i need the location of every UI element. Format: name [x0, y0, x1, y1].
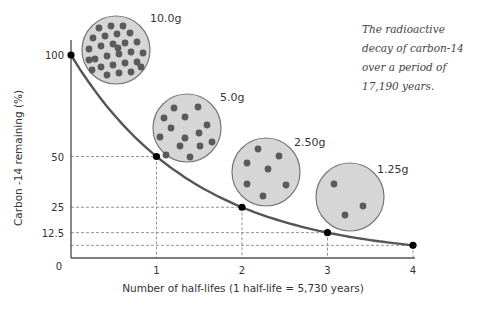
carbon-atom-dot — [331, 181, 338, 188]
carbon-atom-dot — [122, 40, 129, 47]
data-point — [324, 229, 331, 236]
sample-mass-label: 10.0g — [150, 12, 181, 25]
carbon-atom-dot — [276, 153, 283, 160]
carbon-atom-dot — [102, 33, 109, 40]
sample-circle — [316, 163, 384, 231]
data-point — [153, 153, 160, 160]
carbon-atom-dot — [255, 146, 262, 153]
sample-mass-label: 1.25g — [377, 163, 408, 176]
carbon-atom-dot — [86, 57, 93, 64]
carbon-atom-dot — [283, 182, 290, 189]
x-tick-label: 1 — [153, 265, 159, 276]
sample-mass-label: 2.50g — [294, 136, 325, 149]
carbon-atom-dot — [187, 154, 194, 161]
y-tick-label: 12.5 — [42, 228, 64, 239]
carbon-atom-dot — [182, 114, 189, 121]
carbon-atom-dot — [265, 166, 272, 173]
x-tick-label: 2 — [239, 265, 245, 276]
carbon-atom-dot — [120, 23, 127, 30]
carbon-atom-dot — [128, 49, 135, 56]
carbon-atom-dot — [204, 122, 211, 129]
carbon-atom-dot — [86, 46, 93, 53]
sample-circle — [153, 94, 221, 162]
carbon-atom-dot — [182, 135, 189, 142]
x-tick-label: 4 — [410, 265, 416, 276]
y-tick-label: 25 — [51, 202, 64, 213]
carbon-atom-dot — [168, 125, 175, 132]
carbon-atom-dot — [171, 105, 178, 112]
data-point — [238, 204, 245, 211]
carbon-atom-dot — [209, 139, 216, 146]
x-axis-title: Number of half-lifes (1 half-life = 5,73… — [122, 282, 364, 294]
carbon-atom-dot — [116, 70, 123, 77]
carbon-atom-dot — [90, 35, 97, 42]
carbon-atom-dot — [89, 67, 96, 74]
carbon-atom-dot — [128, 69, 135, 76]
y-axis-title: Carbon -14 remaining (%) — [12, 90, 24, 226]
carbon-atom-dot — [163, 152, 170, 159]
carbon-atom-dot — [96, 25, 103, 32]
carbon-atom-dot — [195, 104, 202, 111]
carbon-atom-dot — [104, 72, 111, 79]
carbon-atom-dot — [122, 60, 129, 67]
carbon-atom-dot — [116, 51, 123, 58]
carbon-atom-dot — [177, 143, 184, 150]
carbon-atom-dot — [115, 45, 122, 52]
carbon-atom-dot — [157, 134, 164, 141]
carbon-atom-dot — [244, 160, 251, 167]
y-tick-label: 0 — [56, 261, 62, 272]
carbon-atom-dot — [138, 64, 145, 71]
carbon-atom-dot — [196, 130, 203, 137]
x-tick-labels: 1234 — [153, 265, 416, 276]
carbon-atom-dot — [244, 181, 251, 188]
carbon-atom-dot — [140, 50, 147, 57]
y-tick-label: 100 — [45, 50, 64, 61]
x-tick-label: 3 — [324, 265, 330, 276]
carbon-atom-dot — [161, 115, 168, 122]
y-tick-labels: 012.52550100 — [42, 50, 64, 272]
carbon-atom-dot — [108, 23, 115, 30]
carbon-atom-dot — [104, 53, 111, 60]
carbon-atom-dot — [110, 62, 117, 69]
data-point — [409, 242, 416, 249]
carbon-atom-dot — [98, 64, 105, 71]
carbon-atom-dot — [98, 43, 105, 50]
data-point — [67, 51, 74, 58]
sample-circles: 10.0g5.0g2.50g1.25g — [82, 12, 408, 231]
carbon-atom-dot — [92, 56, 99, 63]
carbon-atom-dot — [114, 31, 121, 38]
carbon-atom-dot — [134, 39, 141, 46]
carbon-atom-dot — [342, 212, 349, 219]
carbon-atom-dot — [127, 30, 134, 37]
chart-caption: The radioactive decay of carbon-14 over … — [362, 20, 474, 96]
y-tick-label: 50 — [51, 152, 64, 163]
carbon-atom-dot — [260, 193, 267, 200]
sample-mass-label: 5.0g — [220, 91, 244, 104]
carbon-atom-dot — [197, 143, 204, 150]
carbon-atom-dot — [360, 203, 367, 210]
